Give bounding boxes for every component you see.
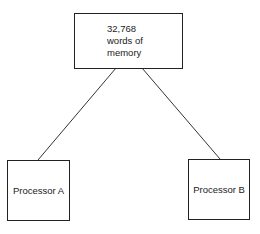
- processor-b-label: Processor B: [193, 184, 245, 195]
- processor-a-box: Processor A: [7, 160, 70, 221]
- processor-b-box: Processor B: [188, 159, 250, 220]
- memory-word: memory: [107, 47, 143, 59]
- connector-memory-to-a: [38, 68, 116, 160]
- memory-box: 32,768 words of memory: [74, 13, 183, 69]
- memory-label: 32,768 words of memory: [107, 23, 143, 59]
- connector-memory-to-b: [142, 68, 220, 159]
- memory-size: 32,768: [107, 23, 143, 35]
- processor-a-label: Processor A: [13, 185, 64, 196]
- memory-unit: words of: [107, 35, 143, 47]
